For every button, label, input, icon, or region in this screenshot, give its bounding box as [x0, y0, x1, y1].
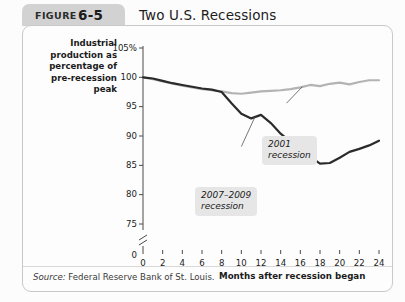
y-tick-label-105: 105% — [103, 43, 137, 53]
source-note: Source: Federal Reserve Bank of St. Loui… — [33, 272, 215, 282]
axis-break-icon — [139, 235, 147, 245]
2007-2009-recession-callout-line2: recession — [201, 201, 251, 212]
figure-root: FIGURE 6-5 Two U.S. Recessions Industria… — [0, 0, 405, 302]
2007-2009-recession-callout: 2007–2009recession — [195, 187, 257, 216]
chart-svg — [121, 40, 383, 254]
x-axis-title: Months after recession began — [219, 271, 390, 302]
callout-leader-2007 — [241, 117, 255, 147]
figure-label: FIGURE — [35, 10, 77, 21]
figure-number: 6-5 — [78, 7, 103, 23]
figure-panel: Industrialproduction aspercentage ofpre-… — [22, 25, 393, 292]
2007-2009-recession-callout-line1: 2007–2009 — [201, 190, 251, 201]
2001-recession-callout-line2: recession — [268, 150, 311, 161]
y-tick-label-75: 75 — [103, 219, 137, 229]
y-tick-label-100: 100 — [103, 72, 137, 82]
series-line-2007-2009 — [143, 77, 379, 163]
source-prefix: Source: — [33, 272, 66, 282]
plot-area: 7580859095100105%00246810121416182022242… — [121, 40, 383, 254]
y-tick-label-90: 90 — [103, 131, 137, 141]
figure-title: Two U.S. Recessions — [139, 7, 276, 23]
y-axis-title-line-4: peak — [31, 84, 117, 96]
figure-header: FIGURE 6-5 Two U.S. Recessions — [22, 4, 394, 26]
y-tick-label-95: 95 — [103, 101, 137, 111]
y-tick-label-0: 0 — [103, 250, 137, 260]
y-tick-label-85: 85 — [103, 160, 137, 170]
2001-recession-callout: 2001recession — [262, 136, 317, 165]
2001-recession-callout-line1: 2001 — [268, 139, 311, 150]
source-divider — [23, 266, 392, 267]
series-line-2001 — [143, 77, 379, 93]
y-tick-label-80: 80 — [103, 189, 137, 199]
source-text: Federal Reserve Bank of St. Louis. — [68, 272, 214, 282]
